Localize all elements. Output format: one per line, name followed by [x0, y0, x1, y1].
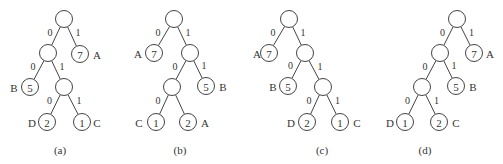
edge-bit-label: 0 [288, 60, 293, 71]
edge-bit-label: 1 [186, 27, 191, 38]
leaf-symbol-label: B [469, 81, 476, 93]
internal-node [56, 79, 73, 96]
edge-bit-label: 1 [76, 27, 81, 38]
leaf-symbol-label: D [287, 117, 295, 129]
edge-bit-label: 1 [77, 95, 82, 106]
edge-bit-label: 0 [156, 27, 161, 38]
edge-bit-label: 1 [452, 60, 457, 71]
node-weight: 2 [436, 117, 442, 129]
node-weight: 2 [185, 117, 191, 129]
node-weight: 5 [453, 81, 459, 93]
tree-edge [52, 27, 61, 46]
edge-bit-label: 0 [271, 27, 276, 38]
tree-c: 0101017A5B2D1C(c) [253, 11, 361, 158]
internal-node [297, 45, 314, 62]
tree-edge [176, 95, 185, 115]
internal-node [166, 11, 183, 28]
node-weight: 1 [153, 117, 159, 129]
node-weight: 5 [27, 82, 33, 94]
node-weight: 7 [77, 49, 83, 61]
internal-node [40, 45, 57, 62]
internal-node [182, 45, 199, 62]
internal-node [164, 79, 181, 96]
edge-bit-label: 0 [31, 61, 36, 72]
edge-bit-label: 0 [307, 95, 312, 106]
leaf-symbol-label: C [452, 117, 459, 129]
leaf-symbol-label: A [134, 48, 142, 60]
leaf-symbol-label: C [93, 117, 100, 129]
leaf-symbol-label: A [93, 49, 101, 61]
edge-bit-label: 1 [434, 95, 439, 106]
node-weight: 1 [402, 117, 408, 129]
node-weight: 7 [151, 48, 157, 60]
edge-bit-label: 1 [318, 61, 323, 72]
leaf-symbol-label: D [386, 117, 394, 129]
edge-bit-label: 0 [423, 61, 428, 72]
tree-edge [444, 27, 453, 46]
edge-bit-label: 1 [202, 60, 207, 71]
internal-node [56, 11, 73, 28]
node-weight: 5 [285, 81, 291, 93]
edge-bit-label: 1 [335, 95, 340, 106]
tree-edge [409, 95, 419, 115]
node-weight: 1 [79, 117, 85, 129]
edge-bit-label: 0 [440, 27, 445, 38]
tree-caption: (c) [316, 144, 329, 157]
internal-node [449, 11, 466, 28]
node-weight: 1 [337, 117, 343, 129]
edge-bit-label: 1 [469, 27, 474, 38]
leaf-symbol-label: C [135, 117, 142, 129]
node-weight: 7 [471, 48, 477, 60]
leaf-symbol-label: B [10, 82, 17, 94]
tree-b: 010107A5B1C2A(b) [134, 11, 227, 158]
leaf-symbol-label: B [219, 81, 226, 93]
edge-bit-label: 1 [301, 27, 306, 38]
leaf-symbol-label: A [201, 117, 209, 129]
tree-edge [160, 95, 169, 115]
leaf-symbol-label: A [486, 48, 494, 60]
edge-bit-label: 0 [156, 95, 161, 106]
node-weight: 5 [203, 81, 209, 93]
edge-bit-label: 1 [60, 61, 65, 72]
internal-node [414, 79, 431, 96]
tree-edge [51, 95, 61, 115]
edge-bit-label: 0 [48, 27, 53, 38]
leaf-symbol-label: B [269, 81, 276, 93]
leaf-symbol-label: C [353, 117, 360, 129]
leaf-symbol-label: D [28, 117, 36, 129]
tree-edge [292, 61, 301, 79]
huffman-trees-figure: 0101017A5B2D1C(a) 010107A5B1C2A(b) 01010… [0, 0, 503, 164]
tree-a: 0101017A5B2D1C(a) [10, 11, 101, 158]
internal-node [432, 45, 449, 62]
edge-bit-label: 0 [47, 95, 52, 106]
tree-edge [311, 95, 320, 115]
edge-bit-label: 0 [405, 95, 410, 106]
internal-node [315, 79, 332, 96]
internal-node [281, 11, 298, 28]
node-weight: 2 [304, 117, 310, 129]
tree-caption: (a) [54, 144, 67, 157]
tree-caption: (d) [419, 144, 432, 157]
tree-d: 0101017A5B1D2C(d) [386, 11, 494, 158]
tree-caption: (b) [174, 144, 187, 157]
node-weight: 7 [266, 48, 272, 60]
leaf-symbol-label: A [253, 48, 261, 60]
node-weight: 2 [44, 117, 50, 129]
edge-bit-label: 0 [173, 61, 178, 72]
